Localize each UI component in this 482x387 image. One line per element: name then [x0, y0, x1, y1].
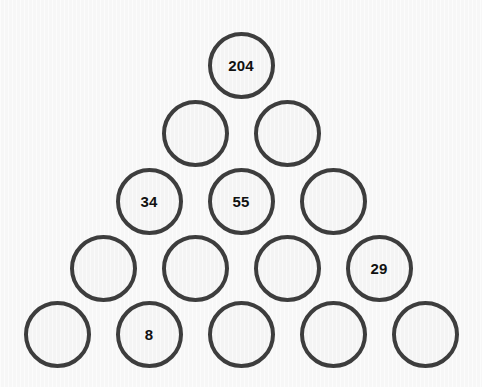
pyramid-row-4: 29	[0, 233, 482, 303]
pyramid-row-2	[0, 98, 482, 168]
pyramid-cell-value: 8	[145, 327, 154, 342]
pyramid-row-5: 8	[0, 299, 482, 369]
pyramid-row-3: 34 55	[0, 166, 482, 236]
pyramid-cell-value: 29	[370, 261, 387, 276]
pyramid-cell-2-2[interactable]	[254, 100, 321, 167]
pyramid-cell-5-1[interactable]	[24, 301, 91, 368]
pyramid-cell-1-1[interactable]: 204	[208, 32, 275, 99]
number-pyramid-puzzle: 204 34 55 29	[0, 0, 482, 387]
pyramid-cell-4-2[interactable]	[162, 235, 229, 302]
pyramid-cell-value: 34	[140, 194, 157, 209]
pyramid-cell-5-2[interactable]: 8	[116, 301, 183, 368]
pyramid-cell-5-4[interactable]	[300, 301, 367, 368]
pyramid-row-1: 204	[0, 30, 482, 100]
pyramid-cell-value: 204	[228, 58, 254, 73]
pyramid-cell-value: 55	[232, 194, 249, 209]
pyramid-cell-4-1[interactable]	[70, 235, 137, 302]
pyramid-cell-5-5[interactable]	[392, 301, 459, 368]
pyramid-cell-4-3[interactable]	[254, 235, 321, 302]
pyramid-cell-3-1[interactable]: 34	[116, 168, 183, 235]
pyramid-cell-4-4[interactable]: 29	[346, 235, 413, 302]
pyramid-cell-2-1[interactable]	[162, 100, 229, 167]
pyramid-cell-3-2[interactable]: 55	[208, 168, 275, 235]
pyramid-cell-3-3[interactable]	[300, 168, 367, 235]
pyramid-cell-5-3[interactable]	[208, 301, 275, 368]
